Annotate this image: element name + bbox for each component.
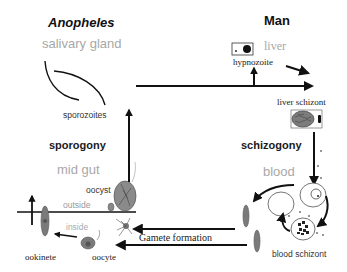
oocyst-label: oocyst — [86, 186, 111, 195]
liver-schizont-icon — [291, 110, 322, 128]
blood-schizont-label: blood schizont — [272, 250, 326, 259]
vector-host-title: Anopheles — [48, 16, 114, 29]
mid-gut-label: mid gut — [57, 163, 100, 176]
liver-label: liver — [264, 40, 286, 52]
oocyte-label: oocyte — [92, 253, 116, 262]
malaria-life-cycle-diagram: Anopheles Man salivary gland liver sporo… — [0, 0, 347, 272]
red-blood-cell — [268, 192, 294, 216]
outside-label: outside — [63, 201, 90, 210]
oocyte-icon — [81, 230, 100, 249]
gamete-formation-label: Gamete formation — [139, 233, 212, 243]
human-host-title: Man — [264, 14, 290, 27]
hypnozoite-label: hypnozoite — [233, 58, 273, 67]
oocyst-icon — [108, 162, 136, 211]
hypnozoite-icon — [232, 43, 253, 55]
ookinete-icon — [41, 206, 49, 236]
oocyte-to-ookinete-arrow — [55, 234, 77, 237]
gametocyte-icon — [254, 230, 260, 252]
schizogony-label: schizogony — [241, 140, 302, 151]
salivary-gland-label: salivary gland — [42, 37, 122, 50]
liver-schizont-label: liver schizont — [277, 98, 326, 107]
gametocyte-icon — [243, 205, 249, 227]
exflagellating-gamete-icon — [116, 218, 132, 236]
inside-label: inside — [66, 223, 88, 232]
blood-cycle — [254, 183, 328, 240]
sporozoites-label: sporozoites — [63, 111, 106, 120]
blood-label: blood — [263, 165, 295, 178]
sporogony-label: sporogony — [49, 140, 106, 151]
ookinete-label: ookinete — [25, 253, 56, 262]
infected-red-cell — [300, 183, 326, 207]
salivary-gland-icon — [45, 61, 105, 105]
liver-progression-arrow — [286, 66, 308, 73]
